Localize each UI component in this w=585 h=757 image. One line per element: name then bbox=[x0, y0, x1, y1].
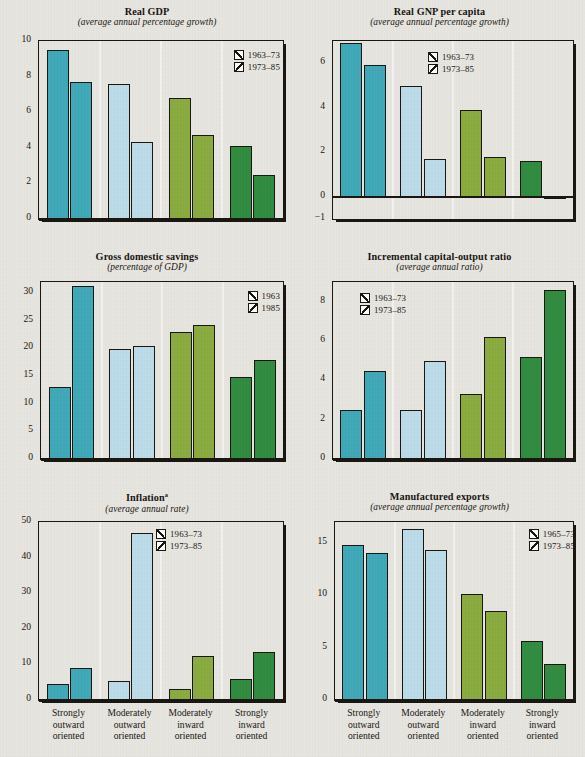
chart-legend: 1965–731973–85 bbox=[529, 529, 575, 553]
category-separator bbox=[161, 282, 163, 459]
legend-swatch-icon bbox=[156, 529, 166, 539]
six-panel-bar-chart-figure: Real GDP(average annual percentage growt… bbox=[0, 0, 585, 757]
y-axis-tick-label: 0 bbox=[294, 452, 325, 462]
bar-incremental-capital-output-ratio-g2-s1 bbox=[484, 337, 506, 459]
y-axis-tick-label: 8 bbox=[294, 295, 325, 305]
category-separator bbox=[512, 41, 514, 219]
x-axis-label-line: Strongly bbox=[38, 707, 99, 719]
bar-gross-domestic-savings-g0-s1 bbox=[72, 286, 94, 459]
bar-real-gdp-g3-s0 bbox=[230, 146, 252, 219]
x-axis-label-line: Moderately bbox=[99, 707, 160, 719]
legend-entry: 1965–73 bbox=[529, 529, 575, 539]
legend-entry: 1973–85 bbox=[529, 541, 575, 551]
bar-manufactured-exports-g1-s1 bbox=[425, 550, 447, 700]
bar-gross-domestic-savings-g3-s1 bbox=[254, 360, 276, 459]
category-separator bbox=[221, 41, 223, 219]
x-axis-category-label: Moderatelyoutwardoriented bbox=[394, 707, 454, 742]
bar-inflation-g3-s1 bbox=[253, 652, 275, 700]
legend-swatch-icon bbox=[428, 64, 438, 74]
bar-gross-domestic-savings-g2-s0 bbox=[170, 332, 192, 459]
legend-label: 1963–73 bbox=[442, 52, 474, 62]
x-axis-label-line: oriented bbox=[160, 730, 221, 742]
x-axis-label-line: oriented bbox=[221, 730, 282, 742]
bar-incremental-capital-output-ratio-g3-s0 bbox=[520, 357, 542, 459]
chart-panel-inflation: Inflationa(average annual rate)010203040… bbox=[0, 485, 294, 757]
x-axis-category-label: Stronglyinwardoriented bbox=[513, 707, 573, 742]
legend-entry: 1963 bbox=[248, 291, 280, 301]
bar-incremental-capital-output-ratio-g1-s1 bbox=[424, 361, 446, 459]
bar-real-gnp-per-capita-g0-s1 bbox=[364, 65, 386, 196]
category-separator bbox=[512, 282, 514, 459]
x-axis-label-line: Moderately bbox=[160, 707, 221, 719]
legend-entry: 1973–85 bbox=[156, 541, 202, 551]
bar-manufactured-exports-g1-s0 bbox=[402, 529, 424, 700]
bar-gross-domestic-savings-g1-s1 bbox=[133, 346, 155, 459]
category-separator bbox=[392, 41, 394, 219]
x-axis-label-line: oriented bbox=[99, 730, 160, 742]
bar-gross-domestic-savings-g2-s1 bbox=[193, 325, 215, 459]
category-separator bbox=[221, 522, 223, 700]
zero-axis-line bbox=[39, 699, 283, 702]
legend-entry: 1963–73 bbox=[156, 529, 202, 539]
bar-manufactured-exports-g0-s1 bbox=[366, 553, 388, 700]
chart-title-block: Manufactured exports(average annual perc… bbox=[294, 491, 585, 513]
legend-label: 1963–73 bbox=[374, 293, 406, 303]
y-axis-tick-label: 25 bbox=[0, 314, 33, 324]
legend-label: 1985 bbox=[262, 303, 280, 313]
y-axis-tick-label: 30 bbox=[0, 586, 31, 596]
bar-real-gdp-g2-s1 bbox=[192, 135, 214, 219]
bar-real-gdp-g0-s0 bbox=[47, 50, 69, 219]
x-axis-label-line: Strongly bbox=[513, 707, 573, 719]
x-axis-label-line: outward bbox=[334, 719, 394, 731]
chart-title-block: Gross domestic savings(percentage of GDP… bbox=[0, 251, 294, 273]
x-axis-category-label: Stronglyoutwardoriented bbox=[334, 707, 394, 742]
legend-label: 1963–73 bbox=[248, 50, 280, 60]
legend-label: 1973–85 bbox=[543, 541, 575, 551]
chart-subtitle: (average annual percentage growth) bbox=[294, 17, 585, 28]
bar-real-gnp-per-capita-g0-s0 bbox=[340, 43, 362, 197]
legend-swatch-icon bbox=[529, 541, 539, 551]
bar-incremental-capital-output-ratio-g3-s1 bbox=[544, 290, 566, 459]
x-axis-label-row: StronglyoutwardorientedModeratelyoutward… bbox=[334, 707, 572, 742]
legend-entry: 1963–73 bbox=[234, 50, 280, 60]
category-separator bbox=[160, 41, 162, 219]
x-axis-category-label: Moderatelyinwardoriented bbox=[453, 707, 513, 742]
legend-swatch-icon bbox=[248, 291, 258, 301]
legend-entry: 1963–73 bbox=[428, 52, 474, 62]
y-axis-tick-label: 30 bbox=[0, 286, 33, 296]
legend-swatch-icon bbox=[156, 541, 166, 551]
category-separator bbox=[513, 522, 515, 700]
bar-real-gnp-per-capita-g2-s0 bbox=[460, 110, 482, 197]
x-axis-label-line: outward bbox=[38, 719, 99, 731]
x-axis-category-label: Moderatelyinwardoriented bbox=[160, 707, 221, 742]
chart-title-block: Real GNP per capita(average annual perce… bbox=[294, 6, 585, 28]
x-axis-label-line: Moderately bbox=[453, 707, 513, 719]
bar-gross-domestic-savings-g1-s0 bbox=[109, 349, 131, 459]
y-axis-tick-label: 5 bbox=[294, 641, 327, 651]
legend-swatch-icon bbox=[529, 529, 539, 539]
y-axis-tick-label: 2 bbox=[0, 176, 31, 186]
legend-swatch-icon bbox=[234, 62, 244, 72]
x-axis-label-line: inward bbox=[160, 719, 221, 731]
x-axis-label-line: Moderately bbox=[394, 707, 454, 719]
bar-real-gnp-per-capita-g2-s1 bbox=[484, 157, 506, 197]
y-axis-tick-label: 50 bbox=[0, 515, 31, 525]
chart-legend: 1963–731973–85 bbox=[156, 529, 202, 553]
x-axis-label-line: inward bbox=[453, 719, 513, 731]
legend-entry: 1985 bbox=[248, 303, 280, 313]
category-separator bbox=[394, 522, 396, 700]
bar-real-gnp-per-capita-g1-s1 bbox=[424, 159, 446, 197]
legend-entry: 1973–85 bbox=[360, 305, 406, 315]
chart-panel-real-gnp-per-capita: Real GNP per capita(average annual perce… bbox=[294, 0, 585, 245]
bar-gross-domestic-savings-g3-s0 bbox=[230, 377, 252, 459]
y-axis-tick-label: 2 bbox=[294, 145, 325, 155]
y-axis-tick-label: 15 bbox=[294, 536, 327, 546]
y-axis-tick-label: −1 bbox=[294, 212, 325, 222]
legend-entry: 1973–85 bbox=[234, 62, 280, 72]
y-axis-tick-label: 15 bbox=[0, 369, 33, 379]
chart-title: Manufactured exports bbox=[294, 491, 585, 502]
x-axis-label-line: oriented bbox=[453, 730, 513, 742]
bar-inflation-g3-s0 bbox=[230, 679, 252, 700]
x-axis-label-line: outward bbox=[394, 719, 454, 731]
legend-label: 1973–85 bbox=[374, 305, 406, 315]
